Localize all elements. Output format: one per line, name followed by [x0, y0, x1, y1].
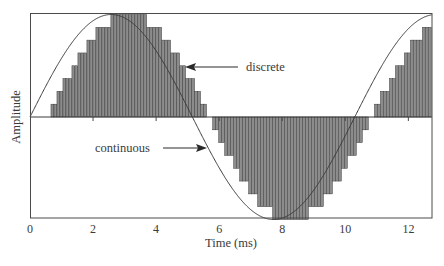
discrete-sample-bar: [345, 117, 348, 168]
discrete-sample-bar: [213, 117, 216, 130]
discrete-sample-bar: [240, 117, 243, 181]
discrete-sample-bar: [216, 117, 219, 130]
x-tick-label: 2: [90, 222, 96, 236]
x-axis-tick-labels: 024681012: [27, 222, 414, 236]
discrete-sample-bar: [422, 27, 425, 117]
discrete-sample-bar: [114, 15, 117, 118]
discrete-sample-bar: [162, 40, 165, 117]
discrete-sample-bar: [407, 53, 410, 117]
discrete-sample-bar: [168, 40, 171, 117]
discrete-sample-bar: [374, 104, 377, 117]
discrete-sample-bar: [177, 53, 180, 117]
discrete-sample-bar: [377, 104, 380, 117]
discrete-sample-bar: [413, 40, 416, 117]
discrete-sample-bar: [428, 27, 431, 117]
discrete-sample-bar: [153, 27, 156, 117]
discrete-sample-bar: [111, 15, 114, 118]
discrete-sample-bar: [425, 27, 428, 117]
discrete-sample-bar: [93, 40, 96, 117]
discrete-sample-bar: [57, 91, 60, 117]
discrete-sample-bar: [72, 66, 75, 117]
discrete-sample-bar: [249, 117, 252, 194]
discrete-sample-bar: [78, 53, 81, 117]
discrete-sample-bar: [132, 15, 135, 118]
discrete-sample-bar: [285, 117, 288, 220]
discrete-sample-bar: [318, 117, 321, 207]
discrete-sample-bar: [294, 117, 297, 220]
discrete-sample-bar: [315, 117, 318, 207]
x-tick-label: 12: [402, 222, 414, 236]
discrete-sample-bar: [117, 15, 120, 118]
discrete-sample-bar: [87, 40, 90, 117]
x-tick-label: 0: [27, 222, 33, 236]
discrete-sample-bar: [99, 27, 102, 117]
discrete-sample-bar: [81, 53, 84, 117]
discrete-sample-bar: [141, 15, 144, 118]
discrete-sample-bar: [270, 117, 273, 207]
discrete-annotation: discrete: [185, 60, 285, 74]
discrete-sample-bar: [321, 117, 324, 207]
discrete-sample-bar: [63, 79, 66, 117]
continuous-label: continuous: [95, 141, 150, 155]
discrete-sample-bar: [237, 117, 240, 168]
discrete-sample-bar: [398, 66, 401, 117]
discrete-sample-bar: [105, 27, 108, 117]
x-axis-title: Time (ms): [205, 236, 257, 250]
amplitude-time-chart: 024681012 Time (ms) Amplitude discrete c…: [0, 0, 444, 266]
discrete-label: discrete: [246, 60, 285, 74]
discrete-sample-bar: [108, 27, 111, 117]
discrete-sample-bar: [243, 117, 246, 181]
discrete-sample-bar: [348, 117, 351, 155]
discrete-sample-bar: [186, 79, 189, 117]
discrete-sample-bar: [386, 91, 389, 117]
discrete-sample-bar: [303, 117, 306, 220]
discrete-sample-bar: [84, 53, 87, 117]
discrete-sample-bar: [180, 66, 183, 117]
y-axis-title: Amplitude: [9, 90, 23, 144]
discrete-sample-bar: [246, 117, 249, 181]
discrete-sample-bar: [135, 15, 138, 118]
discrete-sample-bar: [222, 117, 225, 143]
discrete-sample-bar: [192, 79, 195, 117]
discrete-sample-bar: [75, 66, 78, 117]
discrete-sample-bar: [395, 66, 398, 117]
discrete-sample-bar: [96, 27, 99, 117]
discrete-sample-bar: [264, 117, 267, 207]
discrete-sample-bar: [54, 104, 57, 117]
discrete-sample-bar: [120, 15, 123, 118]
discrete-sample-bar: [330, 117, 333, 194]
discrete-sample-bar: [123, 15, 126, 118]
discrete-sample-bar: [419, 40, 422, 117]
discrete-sample-bar: [392, 79, 395, 117]
discrete-sample-bar: [362, 117, 365, 130]
discrete-sample-bar: [258, 117, 261, 207]
discrete-sample-bar: [288, 117, 291, 220]
discrete-sample-bar: [401, 66, 404, 117]
discrete-sample-bar: [389, 79, 392, 117]
discrete-sample-bar: [126, 15, 129, 118]
discrete-sample-bar: [297, 117, 300, 220]
discrete-sample-bar: [159, 27, 162, 117]
discrete-sample-bar: [261, 117, 264, 207]
discrete-sample-bar: [90, 40, 93, 117]
discrete-sample-bar: [69, 79, 72, 117]
discrete-sample-bar: [324, 117, 327, 194]
discrete-sample-bar: [404, 53, 407, 117]
discrete-sample-bar: [198, 91, 201, 117]
discrete-sample-bar: [279, 117, 282, 220]
discrete-sample-bar: [333, 117, 336, 181]
discrete-sample-bar: [356, 117, 359, 143]
continuous-annotation: continuous: [95, 141, 207, 155]
discrete-sample-bar: [156, 27, 159, 117]
discrete-sample-bar: [165, 40, 168, 117]
discrete-sample-bar: [66, 79, 69, 117]
discrete-sample-bar: [339, 117, 342, 181]
discrete-sample-bar: [276, 117, 279, 220]
discrete-sample-bar: [171, 53, 174, 117]
discrete-sample-bar: [195, 91, 198, 117]
discrete-sample-bar: [234, 117, 237, 168]
discrete-sample-bar: [204, 104, 207, 117]
x-tick-label: 10: [339, 222, 351, 236]
discrete-sample-bar: [291, 117, 294, 220]
discrete-sample-bar: [365, 117, 368, 130]
